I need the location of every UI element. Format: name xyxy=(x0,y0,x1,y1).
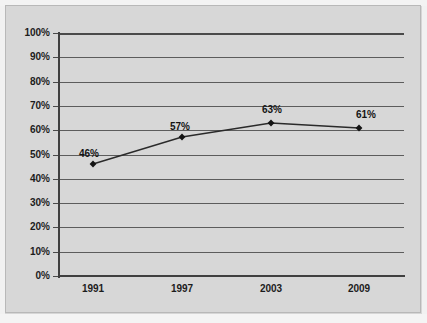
data-marker-1991 xyxy=(90,161,97,168)
data-label-2003: 63% xyxy=(255,104,289,115)
data-label-1997: 57% xyxy=(163,121,197,132)
data-marker-2003 xyxy=(268,120,275,127)
data-series-line xyxy=(0,0,427,323)
data-marker-1997 xyxy=(179,134,186,141)
data-label-1991: 46% xyxy=(72,148,106,159)
data-label-2009: 61% xyxy=(349,109,383,120)
data-marker-2009 xyxy=(356,125,363,132)
series-polyline xyxy=(93,123,359,164)
chart-container: 100% 90% 80% 70% 60% 50% 40% 30% 20% 10%… xyxy=(0,0,427,323)
